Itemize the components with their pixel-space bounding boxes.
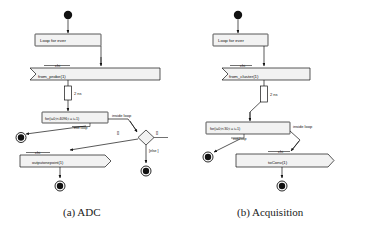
receive-signal-label-b: from_cluster(1) [229, 74, 259, 79]
guard-right-label-a: [] [156, 130, 158, 135]
initial-node-b [234, 11, 242, 19]
edge-exit-to-final-b [214, 139, 240, 152]
edge-delay-bend-b [250, 102, 261, 119]
final-node-left-inner-a [18, 134, 24, 140]
decision-diamond-a [138, 130, 154, 145]
final-node-bottom-inner-a [57, 183, 63, 189]
loop-forever-label-a: Loop for ever [40, 38, 66, 43]
edge-inside-loop-arrow-a [130, 121, 137, 132]
delay-label-b: 2 ns [270, 92, 278, 97]
caption-a: (a) ADC [63, 206, 101, 219]
edge-exit-to-final-a [26, 126, 86, 134]
caption-b: (b) Acquisition [237, 206, 304, 219]
edge-inside-loop-b [290, 131, 300, 150]
delay-bar-b [261, 86, 268, 102]
edge-inside-loop-arrow-b [291, 141, 299, 151]
send-signal-label-a: outputonepoint(1) [32, 160, 64, 165]
delay-label-a: 2 ns [74, 91, 82, 96]
edge-diamond-to-send-a [70, 139, 138, 150]
guard-left-label-a: [] [117, 130, 119, 135]
panel-adc: Loop for ever chi from_probe(1) 2 ns for… [16, 11, 168, 219]
inside-loop-label-a: inside loop [112, 113, 132, 118]
for-loop-label-b: for(i=0;i<30;i = i+1) [210, 127, 240, 131]
final-node-bottom-inner-b [279, 183, 285, 189]
delay-bar-a [65, 86, 72, 100]
final-node-left-inner-b [205, 154, 211, 160]
initial-node-a [64, 11, 72, 19]
loop-forever-label-b: Loop for ever [218, 38, 244, 43]
for-loop-label-a: for(i=0;i<4096;i = i+1) [45, 117, 79, 121]
send-signal-label-b: toConv(1) [268, 160, 288, 165]
panel-acquisition: Loop for ever chi from_cluster(1) 2 ns f… [203, 11, 334, 219]
guard-else-label-a: [else ] [149, 149, 159, 153]
uml-activity-diagrams: Loop for ever chi from_probe(1) 2 ns for… [0, 0, 370, 233]
inside-loop-label-b: inside loop [293, 124, 313, 129]
final-node-right-inner-a [143, 168, 149, 174]
receive-signal-label-a: from_probe(1) [38, 74, 66, 79]
